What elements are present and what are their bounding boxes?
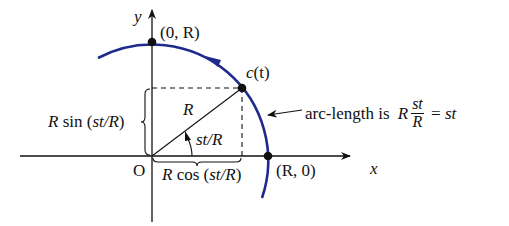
vertical-leg-label: R sin (st/R) — [48, 113, 125, 130]
arc-direction-arrow-icon — [205, 56, 221, 67]
point-top-label: (0, R) — [160, 24, 200, 41]
point-moving — [238, 84, 247, 93]
point-moving-label: c(t) — [246, 64, 270, 81]
origin-label: O — [133, 162, 145, 179]
arc-length-annotation: arc-length is R st R = st — [305, 96, 456, 131]
angle-label: st/R — [196, 131, 222, 148]
arc-length-diagram: y x O (0, R) c(t) (R, 0) R st/R R sin (s… — [0, 0, 509, 226]
y-axis-label: y — [134, 8, 142, 25]
x-axis-label: x — [370, 160, 378, 177]
radius-label: R — [183, 101, 193, 118]
horizontal-leg-label: R cos (st/R) — [162, 166, 241, 183]
point-right — [264, 152, 273, 161]
arc-length-fraction: st R — [411, 96, 424, 131]
vertical-brace — [141, 89, 150, 155]
annotation-arrow — [268, 110, 302, 115]
point-right-label: (R, 0) — [276, 162, 316, 179]
point-top — [148, 38, 157, 47]
angle-arc — [188, 139, 192, 156]
angle-arrow-icon — [185, 131, 191, 141]
